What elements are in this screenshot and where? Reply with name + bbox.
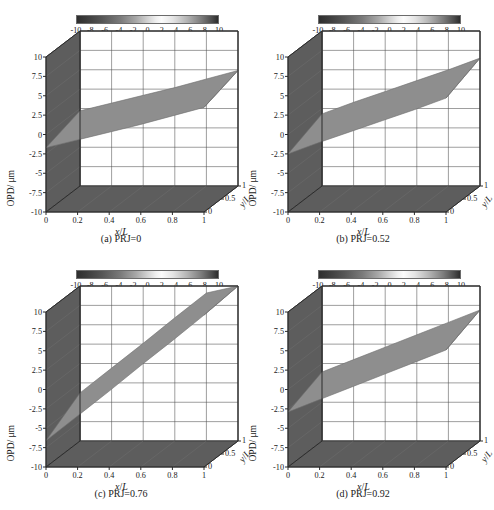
z-axis-tick-label: 5	[38, 91, 42, 100]
z-axis-tick-label: -10	[273, 208, 284, 217]
x-axis-tick-label: 0	[286, 216, 290, 225]
x-axis-tick-label: 1	[202, 471, 206, 480]
y-axis-tick-label: 0.5	[225, 449, 235, 458]
y-axis-tick-label: 0	[450, 207, 454, 216]
z-axis-tick-label: -10	[31, 208, 42, 217]
y-axis-tick-label: 0.5	[225, 194, 235, 203]
z-axis-tick-label: 10	[34, 53, 42, 62]
z-axis-tick-label: 2.5	[32, 111, 42, 120]
panel-caption-c: (c) PRJ=0.76	[0, 488, 242, 499]
z-axis-tick-label: 0	[280, 385, 284, 394]
plot-panel-b: -10-8-6-4-20246810107.552.50-2.5-5-7.5-1…	[242, 0, 484, 255]
x-axis-tick-label: 0.6	[378, 471, 388, 480]
z-axis-tick-label: -10	[273, 463, 284, 472]
z-axis-tick-label: -7.5	[271, 188, 284, 197]
z-axis-title: OPD/ μm	[248, 425, 258, 462]
x-axis-tick-label: 0	[44, 471, 48, 480]
z-axis-tick-label: -5	[35, 424, 42, 433]
x-axis-tick-label: 0.4	[104, 471, 114, 480]
z-axis-tick-label: 5	[280, 91, 284, 100]
z-axis-tick-label: -5	[277, 169, 284, 178]
x-axis-tick-label: 0.6	[136, 471, 146, 480]
z-axis-tick-label: -10	[31, 463, 42, 472]
panel-caption-a: (a) PRJ=0	[0, 233, 242, 244]
z-axis-tick-label: 7.5	[274, 327, 284, 336]
z-axis-tick-label: -5	[277, 424, 284, 433]
z-axis-tick-label: -2.5	[29, 149, 42, 158]
plot-panel-d: -10-8-6-4-20246810107.552.50-2.5-5-7.5-1…	[242, 255, 484, 510]
z-axis-tick-label: 0	[280, 130, 284, 139]
x-axis-tick-label: 0.8	[167, 216, 177, 225]
x-axis-tick-label: 1	[444, 216, 448, 225]
z-axis-tick-label: -2.5	[271, 404, 284, 413]
z-axis-tick-label: -2.5	[29, 404, 42, 413]
y-axis-tick-label: 0.5	[467, 194, 477, 203]
z-axis-title: OPD/ μm	[6, 425, 16, 462]
plot-panel-a: -10-8-6-4-20246810107.552.50-2.5-5-7.5-1…	[0, 0, 242, 255]
z-axis-tick-label: 5	[38, 346, 42, 355]
z-axis-tick-label: 5	[280, 346, 284, 355]
x-axis-tick-label: 0.2	[314, 471, 324, 480]
x-axis-tick-label: 0.2	[72, 471, 82, 480]
z-axis-tick-label: 0	[38, 385, 42, 394]
x-axis-tick-label: 0.6	[136, 216, 146, 225]
x-axis-tick-label: 1	[444, 471, 448, 480]
z-axis-tick-label: -2.5	[271, 149, 284, 158]
z-axis-tick-label: 10	[276, 53, 284, 62]
z-axis-tick-label: 0	[38, 130, 42, 139]
x-axis-tick-label: 0.8	[409, 471, 419, 480]
plot-panel-c: -10-8-6-4-20246810107.552.50-2.5-5-7.5-1…	[0, 255, 242, 510]
y-axis-tick-label: 1	[484, 436, 488, 445]
z-axis-tick-label: -5	[35, 169, 42, 178]
z-axis-tick-label: 2.5	[274, 366, 284, 375]
z-axis-tick-label: 10	[34, 308, 42, 317]
y-axis-tick-label: 0	[208, 462, 212, 471]
y-axis-tick-label: 0	[450, 462, 454, 471]
z-axis-title: OPD/ μm	[6, 170, 16, 207]
x-axis-tick-label: 0.4	[346, 471, 356, 480]
z-axis-title: OPD/ μm	[248, 170, 258, 207]
y-axis-tick-label: 0.5	[467, 449, 477, 458]
y-axis-tick-label: 1	[484, 181, 488, 190]
panel-caption-d: (d) PRJ=0.92	[242, 488, 484, 499]
x-axis-tick-label: 0.8	[167, 471, 177, 480]
z-axis-tick-label: 10	[276, 308, 284, 317]
x-axis-tick-label: 1	[202, 216, 206, 225]
x-axis-tick-label: 0.2	[314, 216, 324, 225]
z-axis-tick-label: 2.5	[32, 366, 42, 375]
x-axis-tick-label: 0.6	[378, 216, 388, 225]
z-axis-tick-label: 7.5	[274, 72, 284, 81]
z-axis-tick-label: 2.5	[274, 111, 284, 120]
panel-caption-b: (b) PRJ=0.52	[242, 233, 484, 244]
x-axis-tick-label: 0	[286, 471, 290, 480]
z-axis-tick-label: 7.5	[32, 72, 42, 81]
z-axis-tick-label: -7.5	[29, 188, 42, 197]
z-axis-tick-label: -7.5	[271, 443, 284, 452]
x-axis-tick-label: 0.4	[104, 216, 114, 225]
z-axis-tick-label: 7.5	[32, 327, 42, 336]
x-axis-tick-label: 0.2	[72, 216, 82, 225]
y-axis-tick-label: 0	[208, 207, 212, 216]
x-axis-tick-label: 0.4	[346, 216, 356, 225]
x-axis-tick-label: 0	[44, 216, 48, 225]
z-axis-tick-label: -7.5	[29, 443, 42, 452]
x-axis-tick-label: 0.8	[409, 216, 419, 225]
